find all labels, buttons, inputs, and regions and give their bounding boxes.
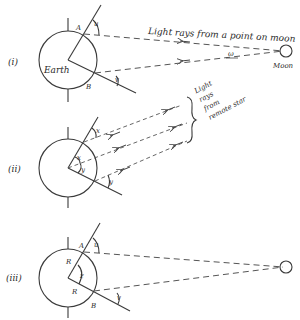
panel-label-iii: (iii)	[6, 273, 22, 283]
parallax-diagram: (i) A u B v Earth ω Light rays from a po…	[0, 0, 300, 320]
ray-a	[84, 252, 283, 267]
angle-w-label: ω	[228, 50, 234, 58]
angle-z-label: z	[79, 272, 84, 280]
star-ray-3	[95, 141, 187, 181]
radial-line-a	[68, 117, 98, 168]
radius-b-label: R	[71, 288, 78, 296]
arrow-icon	[180, 41, 190, 42]
moon-circle	[280, 45, 292, 57]
panel-i: (i) A u B v Earth ω Light rays from a po…	[8, 5, 296, 102]
moon-label: Moon	[272, 62, 294, 70]
arrow-icon	[172, 124, 182, 128]
arrow-icon	[165, 107, 175, 111]
arrow-icon	[180, 60, 190, 61]
angle-u-label: u	[94, 241, 99, 249]
brace-icon	[187, 97, 196, 143]
angle-u-label: u	[94, 20, 99, 28]
radial-line-b	[68, 60, 136, 93]
angle-y-inner-label: y	[80, 166, 86, 174]
panel-iii: (iii) A u R z R B v	[6, 223, 292, 318]
radial-line-a	[68, 223, 100, 278]
point-a-label: A	[75, 24, 81, 32]
radial-line-b	[68, 168, 122, 195]
arrow-icon	[173, 142, 183, 146]
point-b-label: B	[85, 83, 91, 91]
panel-label-ii: (ii)	[8, 164, 21, 174]
radius-a-label: R	[65, 258, 72, 266]
earth-label: Earth	[43, 65, 70, 75]
angle-x-outer-label: x	[96, 127, 100, 135]
angle-v-label: v	[115, 76, 119, 84]
angle-v-label: v	[117, 294, 121, 302]
panel-label-i: (i)	[8, 57, 18, 67]
point-b-label: B	[90, 302, 96, 310]
angle-y-outer-label: y	[108, 178, 114, 186]
moon-circle	[280, 261, 292, 273]
arrow-icon	[110, 132, 120, 136]
angle-x-inner-label: x	[77, 154, 81, 162]
ray-b	[94, 267, 283, 291]
ray-b	[95, 51, 283, 73]
star-caption: Light rays from remote star	[192, 68, 248, 122]
point-a-label: A	[78, 242, 84, 250]
